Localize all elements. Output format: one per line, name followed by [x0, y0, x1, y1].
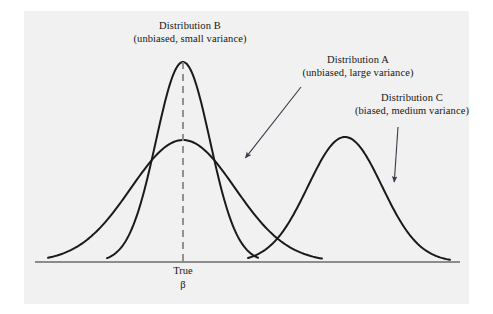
curve-distribution-a — [48, 140, 322, 259]
label-distribution-b: Distribution B (unbiased, small variance… — [116, 20, 264, 45]
label-distribution-a-title: Distribution A — [284, 54, 432, 67]
axis-tick-label-beta: β — [143, 278, 223, 292]
label-distribution-c-title: Distribution C — [338, 92, 486, 105]
axis-tick-label-true: True — [173, 265, 192, 276]
label-distribution-a: Distribution A (unbiased, large variance… — [284, 54, 432, 79]
curve-distribution-c — [248, 137, 450, 260]
axis-tick-label-true-beta: True β — [143, 264, 223, 292]
annotation-arrow-distribution-c — [394, 127, 398, 182]
annotation-arrow-distribution-a — [245, 87, 301, 158]
label-distribution-c-subtitle: (biased, medium variance) — [338, 105, 486, 118]
label-distribution-a-subtitle: (unbiased, large variance) — [284, 67, 432, 80]
distribution-plot — [0, 0, 493, 314]
label-distribution-c: Distribution C (biased, medium variance) — [338, 92, 486, 117]
label-distribution-b-subtitle: (unbiased, small variance) — [116, 33, 264, 46]
label-distribution-b-title: Distribution B — [116, 20, 264, 33]
distribution-figure: Distribution B (unbiased, small variance… — [0, 0, 493, 314]
